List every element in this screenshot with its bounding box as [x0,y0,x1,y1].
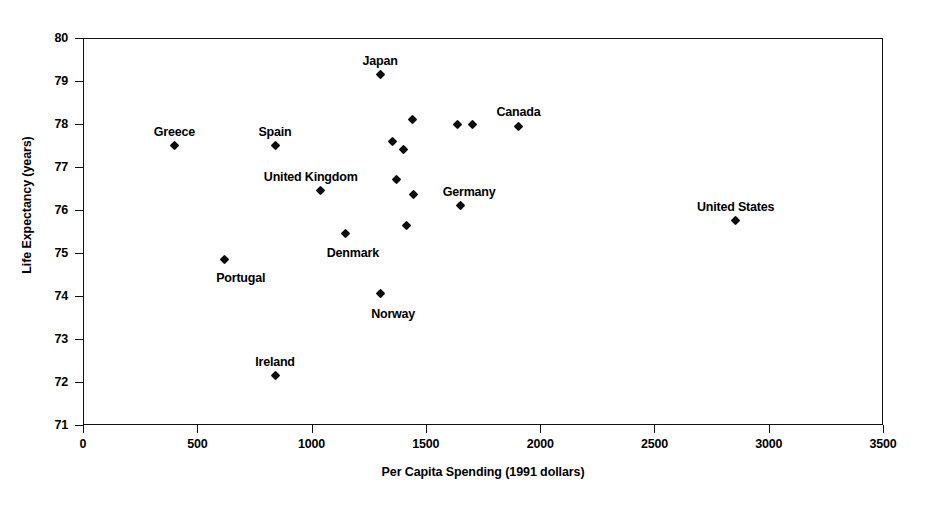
point-label-denmark: Denmark [327,247,379,260]
y-axis-tick-label: 76 [8,204,68,216]
point-label-canada: Canada [496,106,540,119]
point-label-portugal: Portugal [216,272,265,285]
x-axis-tick-label: 3000 [729,437,809,451]
x-axis-tick-label: 1000 [272,437,352,451]
x-axis-tick-label: 3500 [843,437,923,451]
y-axis-tick-label: 78 [8,118,68,130]
point-label-greece: Greece [154,126,195,139]
y-axis-tick-label: 77 [8,161,68,173]
x-axis-tick [883,425,884,433]
x-axis-title: Per Capita Spending (1991 dollars) [83,465,883,479]
y-axis-tick [75,339,83,340]
y-axis-tick [75,382,83,383]
y-axis-tick-label: 75 [8,247,68,259]
y-axis-tick [75,167,83,168]
point-label-united-states: United States [697,201,774,214]
x-axis-tick [769,425,770,433]
point-label-spain: Spain [258,126,291,139]
point-label-japan: Japan [363,55,398,68]
y-axis-tick-label: 80 [8,32,68,44]
y-axis-tick [75,124,83,125]
point-label-united-kingdom: United Kingdom [264,171,358,184]
y-axis-tick [75,38,83,39]
x-axis-tick [426,425,427,433]
x-axis-tick [654,425,655,433]
point-label-germany: Germany [443,186,496,199]
x-axis-tick [540,425,541,433]
point-label-ireland: Ireland [255,356,295,369]
y-axis-tick [75,296,83,297]
y-axis-tick-label: 73 [8,333,68,345]
y-axis-title: Life Expectancy (years) [20,85,34,325]
y-axis-tick-label: 71 [8,419,68,431]
y-axis-tick-label: 72 [8,376,68,388]
y-axis-tick [75,253,83,254]
x-axis-tick-label: 1500 [386,437,466,451]
y-axis-tick-label: 74 [8,290,68,302]
x-axis-tick [312,425,313,433]
x-axis-tick [83,425,84,433]
x-axis-tick-label: 2500 [614,437,694,451]
scatter-plot-figure: 71727374757677787980 0500100015002000250… [0,0,935,509]
x-axis-tick-label: 2000 [500,437,580,451]
y-axis-tick-label: 79 [8,75,68,87]
x-axis-tick-label: 0 [43,437,123,451]
point-label-norway: Norway [371,308,415,321]
x-axis-tick-label: 500 [157,437,237,451]
y-axis-tick [75,425,83,426]
y-axis-tick [75,210,83,211]
y-axis-tick [75,81,83,82]
x-axis-tick [197,425,198,433]
plot-area-frame [83,38,883,425]
